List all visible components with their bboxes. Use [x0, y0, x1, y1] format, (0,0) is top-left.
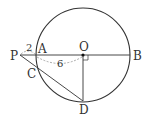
measure-pa: 2: [26, 42, 32, 53]
label-c: C: [27, 67, 36, 81]
label-o: O: [79, 40, 89, 54]
label-d: D: [79, 103, 89, 117]
measure-ao: 6: [57, 58, 63, 69]
label-a: A: [37, 42, 47, 56]
label-p: P: [10, 49, 18, 63]
geometry-diagram: P A O B C D 2 6: [0, 0, 150, 124]
label-b: B: [133, 49, 142, 63]
diagram-canvas: P A O B C D 2 6: [0, 0, 150, 124]
